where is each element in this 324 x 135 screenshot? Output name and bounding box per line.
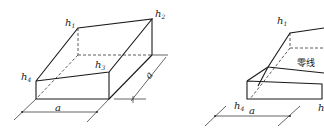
prism-figure-right: h1 h4 h a 零线 [205,15,324,126]
front-face [247,81,322,99]
prism-figure-left: h1 h2 h3 h4 a a [14,8,168,122]
earthwork-grid-diagram: h1 h2 h3 h4 a a h1 h4 h a 零线 [0,0,324,135]
label-zero-line: 零线 [297,57,315,68]
dim-tick [289,115,291,117]
extension-line [14,99,36,120]
dim-tick [96,111,98,113]
dim-tick [21,111,23,113]
label-h1: h1 [277,15,287,27]
zero-line [268,67,324,73]
label-h4: h4 [234,100,244,112]
label-width-a: a [55,102,61,113]
label-h2: h2 [155,8,165,20]
label-h4: h4 [21,71,31,83]
label-h-partial: h [318,102,324,113]
extension-line [87,99,109,122]
top-edge [268,28,324,67]
label-width-a: a [249,105,255,116]
top-face [36,19,152,81]
label-h3: h3 [95,59,105,71]
label-depth-a: a [143,69,155,81]
label-h1: h1 [65,17,75,29]
hidden-edge [250,48,290,99]
dim-tick [214,115,216,117]
